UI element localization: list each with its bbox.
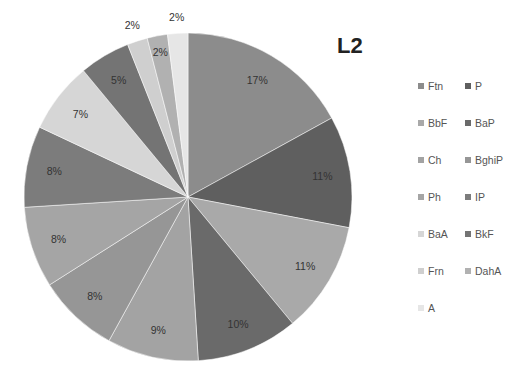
slice-label-ftn: 17%	[247, 74, 268, 86]
slice-label-bkf: 5%	[111, 74, 126, 86]
slice-label-bap: 10%	[228, 318, 249, 330]
legend-swatch-icon	[418, 83, 424, 89]
legend-swatch-icon	[418, 231, 424, 237]
legend-swatch-icon	[418, 120, 424, 126]
legend-swatch-icon	[465, 83, 471, 89]
slice-label-ch: 9%	[151, 324, 166, 336]
legend-label: Ph	[428, 191, 441, 203]
slice-label-frn: 2%	[125, 19, 140, 31]
legend-swatch-icon	[465, 120, 471, 126]
legend-item-ip: IP	[465, 191, 485, 203]
pie-chart: 17%11%11%10%9%8%8%8%7%5%2%2%2%	[0, 0, 529, 374]
legend-swatch-icon	[418, 157, 424, 163]
legend-label: BghiP	[475, 154, 503, 166]
legend-item-daha: DahA	[465, 265, 501, 277]
slice-label-daha: 2%	[153, 46, 168, 58]
legend-label: IP	[475, 191, 485, 203]
slice-label-a: 2%	[169, 11, 184, 23]
legend-label: BbF	[428, 117, 447, 129]
legend-item-a: A	[418, 302, 435, 314]
legend-item-baa: BaA	[418, 228, 448, 240]
legend-swatch-icon	[418, 268, 424, 274]
legend-item-ch: Ch	[418, 154, 441, 166]
legend-item-bkf: BkF	[465, 228, 494, 240]
legend-label: BkF	[475, 228, 494, 240]
legend-label: Ftn	[428, 80, 443, 92]
legend-item-p: P	[465, 80, 482, 92]
legend-label: BaA	[428, 228, 448, 240]
legend-label: A	[428, 302, 435, 314]
legend-swatch-icon	[418, 194, 424, 200]
legend-item-ftn: Ftn	[418, 80, 443, 92]
chart-title: L2	[337, 33, 363, 59]
legend-swatch-icon	[418, 305, 424, 311]
legend-label: BaP	[475, 117, 495, 129]
legend-label: Ch	[428, 154, 441, 166]
legend-item-bbf: BbF	[418, 117, 447, 129]
legend-label: DahA	[475, 265, 501, 277]
slice-label-baa: 7%	[73, 108, 88, 120]
slice-label-p: 11%	[312, 170, 332, 182]
legend-item-bap: BaP	[465, 117, 495, 129]
slice-label-bghip: 8%	[87, 290, 102, 302]
slice-label-ph: 8%	[51, 233, 66, 245]
legend-item-ph: Ph	[418, 191, 441, 203]
legend-swatch-icon	[465, 157, 471, 163]
legend-swatch-icon	[465, 268, 471, 274]
legend-swatch-icon	[465, 231, 471, 237]
legend-item-frn: Frn	[418, 265, 444, 277]
slice-label-bbf: 11%	[295, 260, 315, 272]
legend-item-bghip: BghiP	[465, 154, 503, 166]
legend-label: P	[475, 80, 482, 92]
slice-label-ip: 8%	[47, 165, 62, 177]
legend-label: Frn	[428, 265, 444, 277]
legend-swatch-icon	[465, 194, 471, 200]
